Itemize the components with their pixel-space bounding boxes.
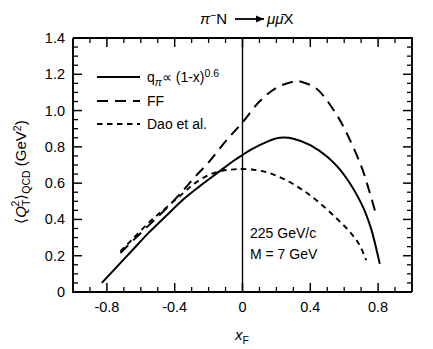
series-q-pi (102, 138, 380, 283)
x-tick-label: 0.4 (300, 299, 320, 315)
x-axis-title: xF (234, 326, 249, 346)
y-tick-label: 1.2 (45, 66, 65, 82)
top-title-products: μμ̄X (266, 10, 293, 27)
x-glyph: X (283, 10, 293, 27)
y-tick-label: 0.8 (45, 139, 65, 155)
y-axis-tick-labels: 00.20.40.60.81.01.21.4 (45, 30, 65, 300)
y-tick-label: 1.0 (45, 103, 65, 119)
legend-label-dao: Dao et al. (147, 116, 207, 132)
x-tick-label: -0.8 (94, 299, 119, 315)
annotation-beam-energy: 225 GeV/c (250, 225, 316, 241)
top-title-beam: π−N (200, 9, 227, 27)
x-tick-label: -0.4 (162, 299, 187, 315)
annotation-mass: M = 7 GeV (250, 246, 318, 262)
y-axis-title: ⟨QT2⟩QCD (GeV2) (9, 120, 32, 223)
reaction-arrow-icon (235, 15, 264, 22)
y-tick-label: 0.2 (45, 248, 65, 264)
x-axis-tick-labels: -0.8-0.400.40.8 (94, 299, 388, 315)
legend-expr: (1-x) (172, 69, 205, 85)
x-tick-label: 0.8 (368, 299, 388, 315)
y-units-close: ) (12, 120, 29, 125)
chart-legend: qπ∝ (1-x)0.6 FF Dao et al. (97, 67, 219, 132)
y-tick-label: 0 (57, 284, 65, 300)
chart-annotation: 225 GeV/c M = 7 GeV (250, 225, 318, 262)
x-tick-label: 0 (238, 299, 246, 315)
y-axis-title-text: ⟨QT2⟩QCD (GeV2) (9, 120, 32, 223)
legend-exp: 0.6 (205, 67, 220, 79)
chart-top-title: π−N μμ̄X (200, 9, 293, 27)
series-dao-et-al (120, 169, 366, 260)
y-sup-2: 2 (9, 201, 21, 207)
legend-label-ff: FF (147, 93, 164, 109)
legend-q: q (147, 69, 155, 85)
target-n: N (216, 10, 227, 27)
x-sub: F (243, 334, 249, 346)
y-tick-label: 0.4 (45, 211, 65, 227)
mu-glyph: μ (266, 10, 275, 27)
legend-prop: ∝ (162, 69, 172, 85)
y-tick-label: 0.6 (45, 175, 65, 191)
figure-container: π−N μμ̄X -0.8-0.400.40.8 00.20.40.60.81.… (0, 0, 433, 349)
chart-svg: π−N μμ̄X -0.8-0.400.40.8 00.20.40.60.81.… (0, 0, 433, 349)
legend-label-q-pi: qπ∝ (1-x)0.6 (147, 67, 219, 88)
y-units: (GeV (12, 131, 29, 170)
y-sub-qcd: QCD (20, 170, 32, 194)
y-tick-label: 1.4 (45, 30, 65, 46)
